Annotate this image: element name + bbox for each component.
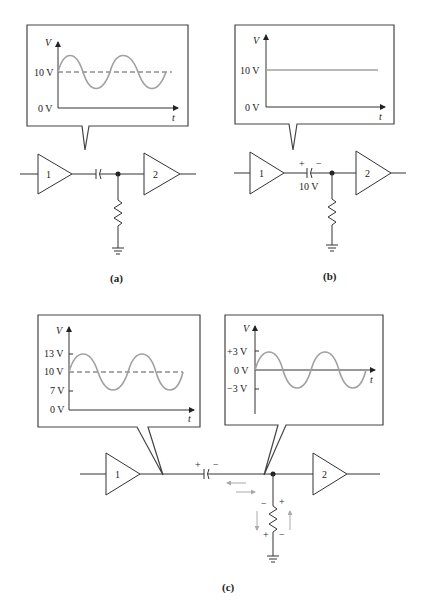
svg-text:7 V: 7 V [50, 385, 65, 396]
svg-text:+: + [195, 459, 201, 470]
svg-text:−: − [279, 529, 285, 540]
svg-text:t: t [188, 413, 191, 424]
svg-text:+: + [299, 158, 305, 169]
amplifier-1 [250, 152, 284, 194]
svg-text:+3 V: +3 V [227, 346, 248, 357]
panel-c: V t 13 V 10 V 7 V 0 V V t +3 V 0 V −3 V … [38, 315, 383, 594]
caption-c: (c) [222, 581, 235, 594]
svg-text:t: t [370, 374, 373, 385]
svg-text:0 V: 0 V [245, 102, 260, 113]
caption-a: (a) [110, 272, 123, 285]
amplifier-1 [38, 154, 72, 194]
svg-text:−: − [261, 498, 267, 509]
circuit-figure: V t 10 V 0 V 1 2 (a) V t 10 V 0 V [0, 0, 422, 608]
svg-text:10 V: 10 V [44, 366, 64, 377]
svg-text:13 V: 13 V [44, 348, 64, 359]
svg-text:−: − [316, 158, 322, 169]
svg-text:2: 2 [153, 169, 158, 180]
svg-text:10 V: 10 V [240, 65, 260, 76]
amplifier-2 [356, 151, 391, 195]
x-axis-label: t [172, 112, 175, 123]
caption-b: (b) [323, 270, 337, 283]
tick-10v: 10 V [34, 67, 54, 78]
svg-text:1: 1 [115, 469, 120, 480]
tick-0v: 0 V [38, 103, 53, 114]
callout-c-right [225, 315, 383, 475]
svg-text:1: 1 [259, 168, 264, 179]
svg-text:t: t [379, 111, 382, 122]
amplifier-2 [313, 453, 347, 495]
svg-text:0 V: 0 V [234, 365, 249, 376]
amplifier-2 [144, 153, 180, 195]
panel-b: V t 10 V 0 V 1 + − 10 V 2 (b) [234, 25, 406, 283]
svg-text:+: + [279, 496, 285, 507]
svg-text:2: 2 [322, 469, 327, 480]
svg-text:−: − [213, 459, 219, 470]
svg-text:0 V: 0 V [50, 404, 65, 415]
svg-text:2: 2 [365, 168, 370, 179]
svg-text:1: 1 [46, 169, 51, 180]
resistor [114, 200, 122, 226]
amplifier-1 [106, 453, 140, 495]
panel-a: V t 10 V 0 V 1 2 (a) [20, 25, 196, 285]
callout-a [27, 25, 188, 150]
svg-text:10 V: 10 V [299, 181, 319, 192]
svg-text:−3 V: −3 V [227, 383, 248, 394]
svg-text:+: + [263, 529, 269, 540]
